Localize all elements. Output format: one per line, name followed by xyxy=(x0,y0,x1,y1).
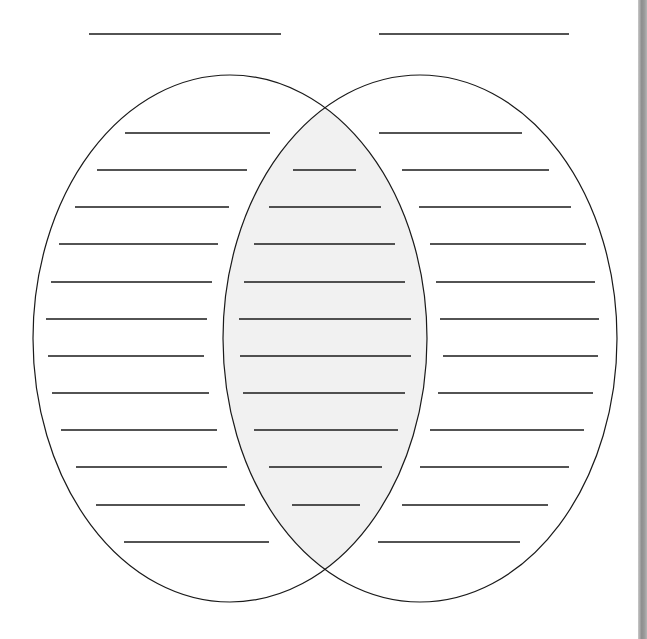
venn-diagram-worksheet xyxy=(0,0,647,639)
intersection-region xyxy=(223,75,617,602)
intersection-shading xyxy=(223,75,617,602)
page-edge-shadow xyxy=(638,0,647,639)
